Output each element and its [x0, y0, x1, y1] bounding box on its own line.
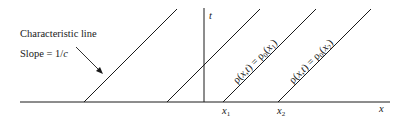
- line-label-1: ρ(x,t) = ρ0(x1): [231, 37, 281, 87]
- characteristic-line-4: [278, 9, 371, 102]
- annotation-arrow: [76, 47, 100, 71]
- characteristic-line-3: [223, 9, 316, 102]
- tick-label-x1: x1: [221, 105, 231, 118]
- annotation-slope: Slope = 1/c: [20, 48, 68, 59]
- tick-label-x2: x2: [276, 105, 286, 118]
- svg-text:ρ(x,t) = ρ0(x1): ρ(x,t) = ρ0(x1): [231, 37, 281, 87]
- t-axis-label: t: [209, 10, 213, 21]
- characteristics-diagram: Characteristic line Slope = 1/c t x x1 x…: [0, 0, 409, 119]
- line-label-2: ρ(x,t) = ρ0(x2): [287, 37, 337, 87]
- characteristic-line-1: [84, 9, 177, 102]
- svg-text:ρ(x,t) = ρ0(x2): ρ(x,t) = ρ0(x2): [287, 37, 337, 87]
- characteristic-line-2: [167, 9, 260, 102]
- x-axis-label: x: [378, 103, 384, 114]
- annotation-title: Characteristic line: [20, 28, 97, 39]
